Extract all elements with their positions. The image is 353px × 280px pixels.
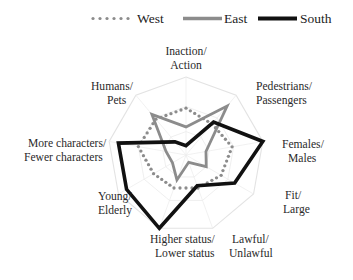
dotted-line-swatch: [91, 17, 129, 20]
radar-chart-figure: West East South Inaction/ Action Pedestr…: [0, 0, 353, 280]
radar-series-dot: [168, 183, 171, 186]
legend-label-east: East: [224, 11, 247, 26]
axis-label-females-males: Females/ Males: [282, 138, 325, 165]
radar-series-dot: [225, 159, 228, 162]
radar-axis-spoke: [186, 141, 263, 155]
radar-series-dot: [144, 159, 147, 162]
radar-series-dot: [197, 114, 200, 117]
svg-text:Females/: Females/: [282, 138, 325, 151]
radar-series-dot: [210, 179, 213, 182]
svg-text:Young/: Young/: [98, 190, 132, 203]
radar-series-dot: [160, 178, 163, 181]
radar-series-dot: [178, 186, 181, 189]
svg-text:Inaction/: Inaction/: [165, 45, 207, 58]
legend-label-west: West: [137, 11, 164, 26]
svg-text:Unlawful: Unlawful: [229, 247, 273, 260]
radar-series-dot: [221, 169, 224, 172]
axis-label-more-fewer-characters: More characters/ Fewer characters: [24, 137, 107, 164]
radar-series-dot: [146, 131, 149, 134]
radar-series-dot: [148, 127, 151, 130]
radar-series-dot: [227, 141, 230, 144]
svg-text:Passengers: Passengers: [256, 94, 307, 107]
legend-item-east: East: [183, 11, 247, 26]
svg-text:Fewer characters: Fewer characters: [24, 151, 103, 164]
axis-label-inaction-action: Inaction/ Action: [165, 45, 207, 72]
svg-text:Lawful/: Lawful/: [232, 233, 269, 246]
radar-series-dot: [215, 176, 218, 179]
radar-series-dot: [147, 163, 150, 166]
svg-text:Lower status: Lower status: [155, 247, 215, 260]
radar-series-dot: [189, 109, 192, 112]
radar-series-dot: [224, 138, 227, 141]
radar-series-dot: [169, 112, 172, 115]
radar-series-dot: [179, 108, 182, 111]
radar-series-dot: [184, 107, 187, 110]
radar-series-dot: [137, 145, 140, 148]
svg-text:Males: Males: [288, 152, 317, 165]
legend-item-west: West: [91, 11, 164, 26]
svg-text:Pedestrians/: Pedestrians/: [256, 80, 313, 93]
axis-label-fit-large: Fit/ Large: [283, 189, 310, 216]
axis-label-higher-lower-status: Higher status/ Lower status: [150, 233, 216, 260]
radar-series-dot: [217, 130, 220, 133]
radar-series-dot: [220, 134, 223, 137]
svg-text:Higher status/: Higher status/: [150, 233, 216, 246]
radar-series-dot: [223, 164, 226, 167]
radar-series-dot: [174, 110, 177, 113]
radar-series-dot: [229, 150, 232, 153]
radar-series-dot: [193, 112, 196, 115]
chart-legend: West East South: [91, 11, 331, 26]
svg-text:Pets: Pets: [107, 94, 127, 107]
radar-series-dot: [164, 181, 167, 184]
axis-label-young-elderly: Young/ Elderly: [98, 190, 132, 217]
radar-series-dot: [227, 155, 230, 158]
axis-label-pedestrians-passengers: Pedestrians/ Passengers: [256, 80, 313, 107]
radar-series-dot: [139, 149, 142, 152]
svg-text:Action: Action: [170, 59, 202, 72]
radar-series-dot: [149, 168, 152, 171]
radar-series-dot: [219, 174, 222, 177]
svg-text:Humans/: Humans/: [91, 80, 134, 93]
radar-series-dot: [230, 145, 233, 148]
radar-series-dot: [206, 120, 209, 123]
radar-series-dot: [143, 136, 146, 139]
axis-label-humans-pets: Humans/ Pets: [91, 80, 134, 107]
radar-series-dot: [142, 154, 145, 157]
legend-item-south: South: [258, 11, 332, 26]
radar-grid: [109, 77, 263, 228]
radar-series-dot: [152, 172, 155, 175]
svg-text:Large: Large: [283, 203, 310, 216]
radar-series-dot: [156, 175, 159, 178]
axis-label-lawful-unlawful: Lawful/ Unlawful: [229, 233, 273, 260]
svg-text:Elderly: Elderly: [98, 204, 132, 217]
radar-chart-svg: West East South Inaction/ Action Pedestr…: [0, 0, 353, 280]
radar-series-dot: [164, 114, 167, 117]
svg-text:Fit/: Fit/: [285, 189, 302, 202]
radar-series-dot: [184, 186, 187, 189]
radar-series-dot: [172, 186, 175, 189]
legend-label-south: South: [300, 11, 332, 26]
svg-text:More characters/: More characters/: [28, 137, 107, 150]
